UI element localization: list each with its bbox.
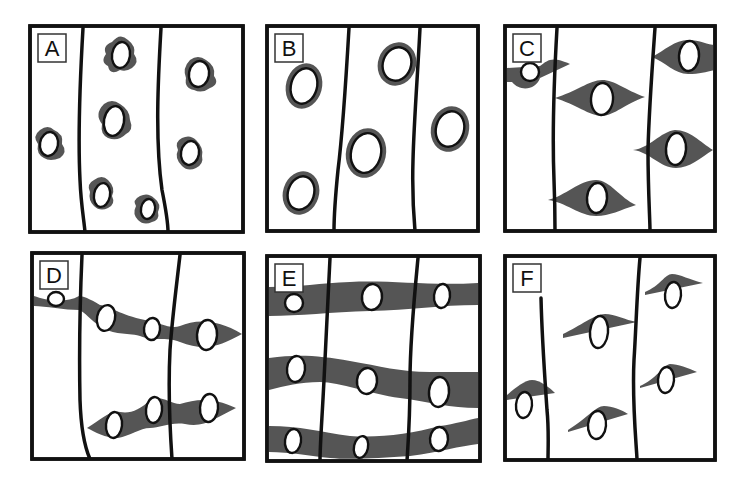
panel-label-text: F [520,266,533,291]
panel-label: B [275,34,303,62]
panel-e: E [267,256,480,461]
nucleus [199,393,219,422]
panel-f: F [505,256,715,460]
nucleus [665,132,687,165]
panel-label-text: D [46,263,62,288]
panel-c: C [505,26,715,231]
panel-a: A [30,26,243,232]
panel-label-text: A [45,36,60,61]
nucleus [143,317,161,341]
panel-label: C [513,34,541,62]
panel-d: D [32,253,244,459]
cell-diagram-figure: ABCDEF [0,0,741,488]
panel-label-text: C [519,36,535,61]
panel-label-text: B [282,36,297,61]
nucleus [521,63,539,81]
panel-label-text: E [282,266,297,291]
nucleus [590,82,614,115]
panel-label: A [38,34,66,62]
nucleus [285,294,303,312]
nucleus [196,319,218,350]
panel-label: E [275,264,303,292]
panel-label: D [40,261,68,289]
nucleus [586,182,608,213]
nucleus [48,292,64,306]
nucleus [429,426,449,451]
panel-b: B [267,26,478,231]
nucleus [678,40,700,71]
panel-label: F [513,264,541,292]
